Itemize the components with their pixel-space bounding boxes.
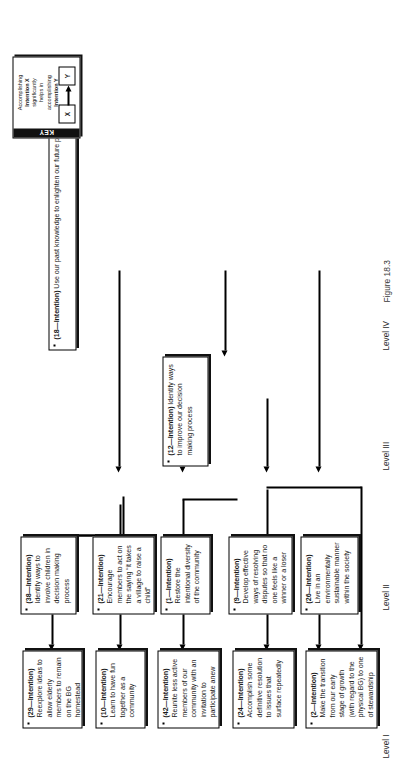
connector-12-9 bbox=[266, 398, 268, 466]
node-12-number: (12—Intention) bbox=[166, 406, 174, 455]
connector-18-12 bbox=[224, 270, 226, 350]
level-label-1: Level I bbox=[381, 734, 390, 758]
key-source-label: X bbox=[63, 111, 70, 115]
connector-18-21 bbox=[118, 270, 120, 466]
key-legend: KEY Accomplishing Intention X significan… bbox=[12, 56, 80, 138]
arrowhead-18-21 bbox=[115, 466, 121, 472]
bullet-icon bbox=[97, 608, 99, 610]
arrowhead-21-10 bbox=[116, 644, 122, 650]
node-9-label: (9—Intention) Develop effective ways of … bbox=[232, 541, 289, 609]
node-10-text: Learn to have fun together as a communit… bbox=[108, 663, 135, 717]
node-18-text: Use our past knowledge to enlighten our … bbox=[52, 115, 60, 288]
node-18-number: (18—Intention) bbox=[52, 290, 60, 339]
bullet-icon bbox=[167, 460, 169, 462]
node-24-label: (24—Intention) Accomplish some definitiv… bbox=[236, 655, 283, 723]
key-arrowhead-icon bbox=[65, 85, 71, 91]
arrowhead-18-26 bbox=[315, 466, 321, 472]
connector-1-10-vertical bbox=[182, 498, 237, 500]
connector-38-29 bbox=[122, 496, 124, 536]
node-12-label: (12—Intention) Identify ways to improve … bbox=[166, 361, 194, 461]
influence-tree-diagram: (29—Intention) Reexplore ideas to allow … bbox=[0, 0, 395, 770]
node-1-label: (1—Intention) Restore the intentional di… bbox=[164, 541, 202, 609]
node-29-number: (29—Intention) bbox=[26, 668, 34, 717]
bullet-icon bbox=[305, 608, 307, 610]
bullet-icon bbox=[100, 722, 102, 724]
figure-viewport: (29—Intention) Reexplore ideas to allow … bbox=[0, 0, 395, 770]
arrowhead-38-29 bbox=[48, 644, 54, 650]
node-9-number: (9—Intention) bbox=[232, 558, 240, 603]
key-source-box: X bbox=[58, 104, 75, 123]
node-42-text: Reunite less active members of our commu… bbox=[170, 658, 216, 717]
key-desc-line-1: Accomplishing bbox=[16, 74, 22, 109]
arrowhead-9-2 bbox=[357, 644, 363, 650]
level-label-2: Level II bbox=[381, 584, 390, 610]
arrowhead-9-24 bbox=[263, 644, 269, 650]
node-2-text: Make the transition from our early stage… bbox=[318, 656, 373, 717]
bullet-icon bbox=[25, 608, 27, 610]
level-label-4: Level IV bbox=[381, 320, 390, 350]
node-24-text: Accomplish some definitive resolution to… bbox=[245, 657, 281, 717]
bullet-icon bbox=[53, 344, 55, 346]
key-desc-line-3: significantly bbox=[30, 78, 36, 106]
figure-caption: Figure 18.3 bbox=[381, 260, 391, 302]
node-29-label: (29—Intention) Reexplore ideas to allow … bbox=[26, 655, 83, 723]
node-38[interactable]: (38—Intention) Identify ways to involve … bbox=[20, 536, 76, 614]
node-24[interactable]: (24—Intention) Accomplish some definitiv… bbox=[232, 650, 294, 728]
arrowhead-1-10 bbox=[179, 644, 185, 650]
key-title-bar: KEY bbox=[13, 128, 79, 137]
node-38-label: (38—Intention) Identify ways to involve … bbox=[24, 541, 71, 609]
level-label-3: Level III bbox=[381, 441, 390, 470]
key-arrow-line bbox=[67, 90, 69, 105]
key-target-box: Y bbox=[58, 66, 75, 85]
node-29[interactable]: (29—Intention) Reexplore ideas to allow … bbox=[22, 650, 82, 728]
node-12[interactable]: (12—Intention) Identify ways to improve … bbox=[162, 356, 208, 466]
key-desc-line-2: Intention X bbox=[23, 78, 29, 106]
node-21-number: (21—Intention) bbox=[96, 554, 104, 603]
arrowhead-12-1 bbox=[179, 466, 185, 472]
node-1[interactable]: (1—Intention) Restore the intentional di… bbox=[160, 536, 210, 614]
bullet-icon bbox=[27, 722, 29, 724]
node-2-label: (2—Intention) Make the transition from o… bbox=[309, 655, 375, 723]
node-21-label: (21—Intention) Encourage members to act … bbox=[96, 541, 153, 609]
node-10-number: (10—Intention) bbox=[99, 668, 107, 717]
node-9-text: Develop effective ways of resolving disp… bbox=[241, 544, 287, 603]
node-29-text: Reexplore ideas to allow elderly members… bbox=[35, 657, 81, 717]
key-desc-line-4: helps in bbox=[37, 83, 43, 102]
bullet-icon bbox=[310, 722, 312, 724]
bullet-icon bbox=[237, 722, 239, 724]
node-21-text: Encourage members to act on the saying “… bbox=[105, 545, 151, 603]
node-26-label: (26—Intention) Live in an environmentall… bbox=[304, 541, 351, 609]
arrowhead-12-9 bbox=[263, 466, 269, 472]
arrowhead-18-12 bbox=[221, 350, 227, 356]
bullet-icon bbox=[162, 722, 164, 724]
node-38-text: Identify ways to involve children in dec… bbox=[33, 548, 69, 603]
connector-9-2-vertical bbox=[266, 486, 361, 488]
node-26[interactable]: (26—Intention) Live in an environmentall… bbox=[300, 536, 358, 614]
key-description: Accomplishing Intention X significantly … bbox=[16, 60, 59, 124]
node-10-label: (10—Intention) Learn to have fun togethe… bbox=[99, 655, 137, 723]
node-26-text: Live in an environmentally sustainable m… bbox=[313, 542, 349, 603]
node-42-label: (42—Intention) Reunite less active membe… bbox=[161, 655, 218, 723]
connector-18-26 bbox=[318, 270, 320, 466]
node-38-number: (38—Intention) bbox=[24, 554, 32, 603]
key-desc-line-6: Intention Y bbox=[52, 78, 58, 106]
bullet-icon bbox=[233, 608, 235, 610]
node-21[interactable]: (21—Intention) Encourage members to act … bbox=[92, 536, 154, 614]
node-26-number: (26—Intention) bbox=[304, 554, 312, 603]
key-title: KEY bbox=[39, 129, 54, 136]
node-1-number: (1—Intention) bbox=[164, 558, 172, 603]
node-24-number: (24—Intention) bbox=[236, 668, 244, 717]
node-2-number: (2—Intention) bbox=[309, 672, 317, 717]
key-target-label: Y bbox=[63, 73, 70, 77]
bullet-icon bbox=[165, 608, 167, 610]
node-9[interactable]: (9—Intention) Develop effective ways of … bbox=[228, 536, 292, 614]
node-10[interactable]: (10—Intention) Learn to have fun togethe… bbox=[95, 650, 145, 728]
node-42[interactable]: (42—Intention) Reunite less active membe… bbox=[157, 650, 219, 728]
node-1-text: Restore the intentional diversity of the… bbox=[173, 544, 200, 603]
node-42-number: (42—Intention) bbox=[161, 668, 169, 717]
arrowhead-26-2 bbox=[315, 644, 321, 650]
connector-9-2 bbox=[360, 486, 362, 644]
key-desc-line-5: accomplishing bbox=[45, 75, 51, 110]
node-2[interactable]: (2—Intention) Make the transition from o… bbox=[305, 650, 377, 728]
